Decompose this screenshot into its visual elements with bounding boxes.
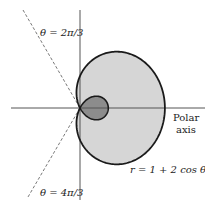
curve-equation-label: r = 1 + 2 cos θ [130, 164, 205, 175]
label-theta-4pi-3: θ = 4π/3 [40, 187, 83, 198]
polar-axis-label-line1: Polar [173, 112, 200, 123]
polar-axis-label-line2: axis [176, 124, 196, 135]
theta-2pi-3-dashed-line [23, 10, 80, 108]
limacon-diagram: θ = 2π/3 θ = 4π/3 Polar axis r = 1 + 2 c… [0, 0, 205, 204]
label-theta-2pi-3: θ = 2π/3 [40, 27, 83, 38]
theta-4pi-3-dashed-line [28, 108, 80, 197]
